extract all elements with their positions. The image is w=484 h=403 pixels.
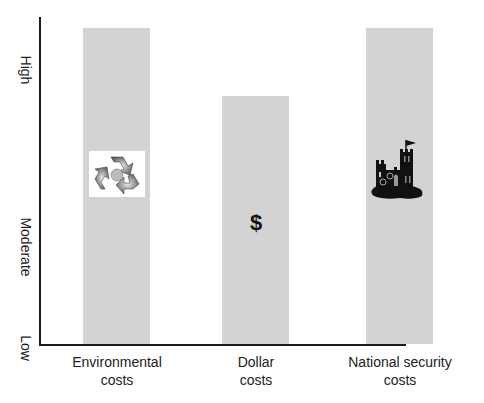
x-label-line1: National security (348, 353, 452, 371)
x-axis-line (39, 344, 406, 346)
x-label-line2: costs (348, 371, 452, 389)
dollar-sign-icon: $ (250, 210, 262, 236)
y-axis-line (39, 17, 41, 346)
y-tick-moderate: Moderate (18, 217, 34, 276)
y-tick-high: High (18, 56, 34, 85)
x-label-dollar-costs: Dollar costs (238, 353, 275, 389)
castle-icon (370, 138, 426, 202)
x-label-national-security-costs: National security costs (348, 353, 452, 389)
recycle-icon (89, 151, 145, 197)
bar-chart: High Moderate Low $ (0, 0, 484, 403)
x-label-environmental-costs: Environmental costs (72, 353, 162, 389)
x-label-line2: costs (238, 371, 275, 389)
x-label-line1: Environmental (72, 353, 162, 371)
x-label-line2: costs (72, 371, 162, 389)
y-tick-low: Low (18, 335, 34, 361)
x-label-line1: Dollar (238, 353, 275, 371)
